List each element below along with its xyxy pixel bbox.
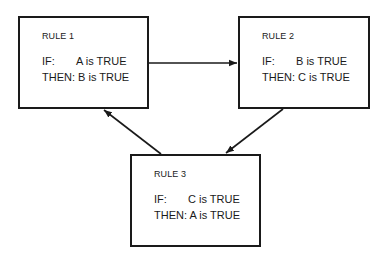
rule-2-box: RULE 2 IF:B is TRUE THEN: C is TRUE [238, 16, 370, 109]
rule-1-box: RULE 1 IF:A is TRUE THEN: B is TRUE [18, 16, 149, 109]
rule-3-then-value: A is TRUE [189, 209, 240, 221]
rule-1-then-row: THEN: B is TRUE [42, 71, 129, 83]
rule-1-title: RULE 1 [42, 31, 74, 41]
rule-1-then-value: B is TRUE [78, 71, 129, 83]
rule-3-box: RULE 3 IF:C is TRUE THEN: A is TRUE [130, 154, 261, 247]
rule-3-then-row: THEN: A is TRUE [154, 209, 240, 221]
rule-3-if-label: IF: [154, 193, 188, 205]
rule-1-if-label: IF: [42, 55, 76, 67]
rule-2-if-value: B is TRUE [296, 55, 347, 67]
rule-1-if-row: IF:A is TRUE [42, 55, 127, 67]
arrow-rule3-to-rule1 [104, 110, 161, 154]
rule-2-title: RULE 2 [262, 31, 294, 41]
rule-1-if-value: A is TRUE [76, 55, 127, 67]
rule-2-if-row: IF:B is TRUE [262, 55, 347, 67]
rule-3-if-row: IF:C is TRUE [154, 193, 240, 205]
rule-3-if-value: C is TRUE [188, 193, 240, 205]
rule-2-then-row: THEN: C is TRUE [262, 71, 350, 83]
arrow-rule2-to-rule3 [226, 109, 283, 153]
rule-2-then-value: C is TRUE [298, 71, 350, 83]
rule-3-then-label: THEN: [154, 209, 187, 221]
rule-2-if-label: IF: [262, 55, 296, 67]
rule-2-then-label: THEN: [262, 71, 295, 83]
rule-3-title: RULE 3 [154, 169, 186, 179]
rule-1-then-label: THEN: [42, 71, 75, 83]
